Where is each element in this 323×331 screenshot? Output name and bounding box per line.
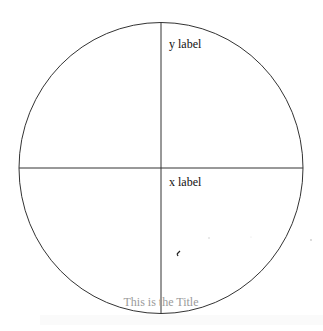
y-label: y label: [169, 37, 202, 51]
marker-glyph: [177, 251, 180, 256]
faint-dot: [208, 237, 210, 239]
diagram-canvas: y label x label This is the Title: [0, 0, 323, 331]
faint-dot: [250, 236, 251, 237]
title: This is the Title: [123, 295, 198, 309]
x-label: x label: [169, 175, 202, 189]
faint-dot: [310, 239, 312, 241]
